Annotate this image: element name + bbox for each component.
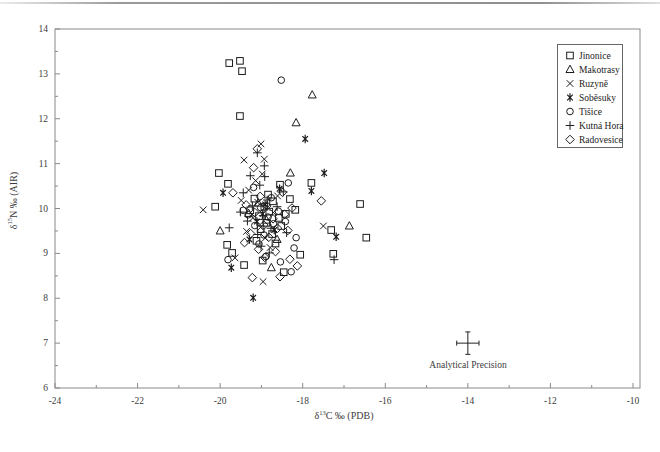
legend-item-jinonice: Jinonice xyxy=(564,49,622,63)
data-point xyxy=(287,196,294,203)
y-axis-title-superscript: 15 xyxy=(6,218,13,225)
data-point xyxy=(267,263,275,270)
data-point xyxy=(243,217,252,226)
data-point xyxy=(297,251,304,258)
data-point xyxy=(216,170,223,177)
y-tick-label: 10 xyxy=(39,204,49,214)
data-point xyxy=(229,188,238,197)
data-point xyxy=(239,68,246,75)
data-point xyxy=(237,58,244,65)
plus-marker-icon xyxy=(564,120,576,131)
diamond-marker-icon xyxy=(564,134,576,145)
y-tick-label: 14 xyxy=(39,24,49,34)
y-axis-title-delta: δ xyxy=(8,224,19,229)
data-point xyxy=(240,238,249,247)
legend-item-label: Makotrasy xyxy=(579,65,620,75)
data-point xyxy=(236,208,245,217)
data-point xyxy=(226,60,233,67)
data-point xyxy=(285,180,292,187)
analytical-precision-label: Analytical Precision xyxy=(398,360,538,370)
legend-item-sob-suky: Soběsuky xyxy=(564,91,622,105)
y-tick-label: 12 xyxy=(39,114,49,124)
data-point xyxy=(317,197,326,206)
circle-marker-icon xyxy=(564,106,576,117)
analytical-precision-cross xyxy=(457,332,479,354)
legend-item-kutn-hora: Kutná Hora xyxy=(564,119,622,133)
x-axis-title: δ13C ‰ (PDB) xyxy=(244,410,444,421)
legend-item-ruzyn: Ruzyně xyxy=(564,77,622,91)
data-point xyxy=(252,177,259,184)
data-point xyxy=(293,234,300,241)
data-point xyxy=(241,157,248,164)
data-point xyxy=(288,268,295,275)
data-point xyxy=(271,247,280,256)
y-tick-label: 11 xyxy=(39,159,48,169)
data-point xyxy=(321,169,327,178)
square-marker-icon xyxy=(564,50,576,61)
data-point xyxy=(328,227,335,234)
data-point xyxy=(248,273,257,282)
legend-item-label: Tišice xyxy=(579,107,602,117)
data-point xyxy=(309,187,315,196)
plot-frame xyxy=(55,29,640,388)
data-point xyxy=(277,259,284,266)
star-marker-icon xyxy=(564,92,576,103)
y-axis-tick-labels: 67891011121314 xyxy=(39,24,49,393)
x-tick-label: -22 xyxy=(131,396,144,406)
figure-page: -24-22-20-18-16-14-12-1067891011121314 δ… xyxy=(0,0,660,452)
x-tick-label: -10 xyxy=(627,396,640,406)
data-point xyxy=(250,294,256,303)
data-point xyxy=(228,263,234,272)
x-tick-label: -14 xyxy=(462,396,475,406)
legend-item-label: Kutná Hora xyxy=(579,121,624,131)
data-point xyxy=(237,113,244,120)
data-point xyxy=(308,91,316,98)
data-point xyxy=(293,262,302,271)
data-point xyxy=(220,188,226,197)
x-axis xyxy=(55,383,633,388)
x-axis-tick-labels: -24-22-20-18-16-14-12-10 xyxy=(49,396,640,406)
x-tick-label: -18 xyxy=(296,396,309,406)
legend: JinoniceMakotrasyRuzyněSoběsukyTišiceKut… xyxy=(557,44,623,148)
x-marker-icon xyxy=(564,78,576,89)
data-point xyxy=(278,77,285,84)
data-point xyxy=(280,269,287,276)
y-axis xyxy=(55,29,60,388)
data-point xyxy=(345,222,353,229)
data-point xyxy=(308,180,315,187)
data-point xyxy=(302,135,308,144)
y-tick-label: 13 xyxy=(39,69,49,79)
data-point xyxy=(291,245,298,252)
data-point xyxy=(282,218,289,225)
data-point xyxy=(216,227,224,234)
data-point xyxy=(292,118,300,125)
data-point xyxy=(273,235,281,242)
data-point xyxy=(225,181,232,188)
legend-item-radovesice: Radovesice xyxy=(564,133,622,147)
data-point xyxy=(241,262,248,269)
data-point xyxy=(260,162,269,171)
data-point xyxy=(260,278,267,285)
y-axis-title: δ15N ‰ (AIR) xyxy=(8,136,21,266)
data-point xyxy=(225,256,232,263)
data-point xyxy=(239,188,248,197)
data-point xyxy=(363,234,370,241)
data-point xyxy=(272,240,279,247)
x-tick-label: -20 xyxy=(214,396,227,406)
series-jinonice xyxy=(212,58,370,276)
data-point xyxy=(225,223,234,232)
y-tick-label: 6 xyxy=(43,383,48,393)
legend-item-label: Soběsuky xyxy=(579,93,616,103)
x-axis-title-rest: C ‰ (PDB) xyxy=(326,410,374,421)
data-point xyxy=(200,207,207,214)
legend-item-makotrasy: Makotrasy xyxy=(564,63,622,77)
legend-item-label: Ruzyně xyxy=(579,79,608,89)
legend-item-label: Radovesice xyxy=(579,135,623,145)
data-point xyxy=(254,217,260,226)
y-tick-label: 7 xyxy=(43,338,48,348)
legend-item-label: Jinonice xyxy=(579,51,611,61)
y-axis-title-rest: N ‰ (AIR) xyxy=(8,172,19,218)
data-point xyxy=(320,223,327,230)
data-point xyxy=(286,169,294,176)
series-kutn-hora xyxy=(225,149,338,264)
